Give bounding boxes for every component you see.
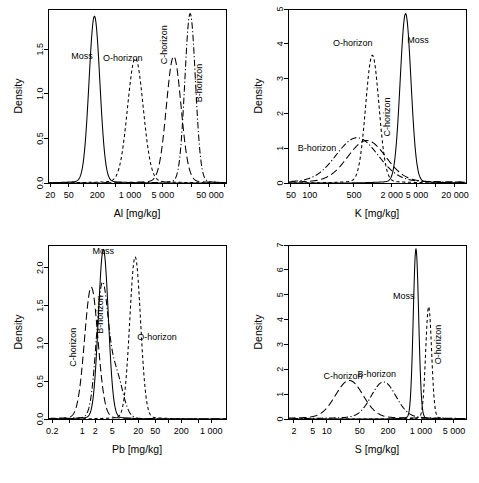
x-tick-label: 10 bbox=[322, 426, 332, 436]
series-label-moss: Moss bbox=[407, 35, 429, 45]
density-curve-o-horizon bbox=[288, 55, 466, 183]
x-tick-label: 5 bbox=[310, 426, 315, 436]
y-tick-label: 6 bbox=[275, 267, 285, 272]
y-tick-label: 2 bbox=[275, 111, 285, 116]
series-label-b-horizon: B-horizon bbox=[298, 143, 337, 153]
y-axis-title: Density bbox=[12, 314, 24, 350]
y-axis-title: Density bbox=[252, 314, 264, 350]
series-label-b-horizon: B-horizon bbox=[358, 369, 397, 379]
x-tick-label: 2 bbox=[93, 426, 98, 436]
density-curve-moss bbox=[288, 14, 466, 183]
x-tick-label: 50 bbox=[286, 190, 296, 200]
x-axis: 20502001 0005 00050 000 bbox=[45, 183, 224, 200]
y-axis: 012345 bbox=[275, 6, 288, 185]
y-tick-label: 4 bbox=[275, 317, 285, 322]
series-label-c-horizon: C-horizon bbox=[382, 97, 392, 136]
x-tick-label: 20 bbox=[45, 190, 55, 200]
x-tick-label: 50 bbox=[355, 426, 365, 436]
y-axis: 0.00.51.01.5 bbox=[35, 43, 48, 189]
series-label-moss: Moss bbox=[93, 246, 115, 256]
y-axis: 0.00.51.01.52.0 bbox=[35, 261, 48, 425]
y-tick-label: 0.5 bbox=[35, 132, 45, 145]
series-label-o-horizon: O-horizon bbox=[433, 325, 443, 365]
series-annotations: C-horizonB-horizonMossO-horizon bbox=[68, 246, 177, 367]
y-tick-label: 4 bbox=[275, 41, 285, 46]
panel-k: 501005002 0005 00020 000K [mg/kg]012345D… bbox=[240, 0, 479, 236]
x-tick-label: 5 000 bbox=[443, 426, 466, 436]
y-tick-label: 0.5 bbox=[35, 375, 45, 388]
series-label-c-horizon: C-horizon bbox=[68, 328, 78, 367]
x-tick-label: 5 000 bbox=[406, 190, 429, 200]
plot-box bbox=[288, 9, 466, 183]
panel-k-canvas: 501005002 0005 00020 000K [mg/kg]012345D… bbox=[240, 0, 479, 236]
x-tick-label: 500 bbox=[346, 190, 361, 200]
x-axis-title: S [mg/kg] bbox=[355, 443, 399, 455]
x-tick-label: 5 bbox=[110, 426, 115, 436]
x-tick-label: 1 000 bbox=[410, 426, 433, 436]
y-axis-title: Density bbox=[12, 78, 24, 114]
y-tick-label: 1 bbox=[275, 392, 285, 397]
series-label-b-horizon: B-horizon bbox=[95, 295, 105, 334]
series-label-moss: Moss bbox=[393, 291, 415, 301]
x-tick-label: 2 bbox=[291, 426, 296, 436]
x-tick-label: 1 bbox=[80, 426, 85, 436]
y-axis-title: Density bbox=[252, 78, 264, 114]
panel-pb: 0.212520502001 000Pb [mg/kg]0.00.51.01.5… bbox=[0, 236, 239, 472]
x-tick-label: 100 bbox=[302, 190, 317, 200]
x-tick-label: 50 bbox=[64, 190, 74, 200]
x-tick-label: 1 000 bbox=[119, 190, 142, 200]
y-tick-label: 3 bbox=[275, 76, 285, 81]
series-label-c-horizon: C-horizon bbox=[159, 25, 169, 64]
x-tick-label: 5 000 bbox=[152, 190, 175, 200]
series-label-o-horizon: O-horizon bbox=[137, 332, 177, 342]
x-tick-label: 1 000 bbox=[200, 426, 223, 436]
x-tick-label: 200 bbox=[90, 190, 105, 200]
curves bbox=[288, 14, 466, 183]
y-tick-label: 1.5 bbox=[35, 299, 45, 312]
y-tick-label: 7 bbox=[275, 242, 285, 247]
panel-al-canvas: 20502001 0005 00050 000Al [mg/kg]0.00.51… bbox=[0, 0, 239, 236]
x-axis: 2510502001 0005 000 bbox=[291, 419, 465, 436]
panel-pb-canvas: 0.212520502001 000Pb [mg/kg]0.00.51.01.5… bbox=[0, 236, 239, 472]
x-axis-title: K [mg/kg] bbox=[355, 207, 399, 219]
y-tick-label: 1 bbox=[275, 146, 285, 151]
x-tick-label: 200 bbox=[174, 426, 189, 436]
y-tick-label: 2 bbox=[275, 367, 285, 372]
series-label-o-horizon: O-horizon bbox=[103, 53, 143, 63]
y-tick-label: 0.0 bbox=[35, 177, 45, 190]
panel-al: 20502001 0005 00050 000Al [mg/kg]0.00.51… bbox=[0, 0, 239, 236]
y-tick-label: 0 bbox=[275, 180, 285, 185]
x-axis-title: Pb [mg/kg] bbox=[112, 443, 162, 455]
x-tick-label: 2 000 bbox=[381, 190, 404, 200]
series-label-b-horizon: B-horizon bbox=[194, 64, 204, 103]
y-tick-label: 0.0 bbox=[35, 413, 45, 426]
y-tick-label: 0 bbox=[275, 416, 285, 421]
y-tick-label: 5 bbox=[275, 6, 285, 11]
x-axis-title: Al [mg/kg] bbox=[114, 207, 161, 219]
x-tick-label: 20 000 bbox=[441, 190, 469, 200]
series-label-moss: Moss bbox=[71, 51, 93, 61]
density-curve-b-horizon bbox=[288, 382, 466, 419]
y-tick-label: 3 bbox=[275, 342, 285, 347]
y-tick-label: 1.0 bbox=[35, 337, 45, 350]
y-axis: 01234567 bbox=[275, 242, 288, 421]
y-tick-label: 1.5 bbox=[35, 43, 45, 56]
y-tick-label: 5 bbox=[275, 292, 285, 297]
x-tick-label: 50 bbox=[150, 426, 160, 436]
x-axis: 0.212520502001 000 bbox=[46, 419, 223, 436]
panel-s-canvas: 2510502001 0005 000S [mg/kg]01234567Dens… bbox=[240, 236, 479, 472]
x-tick-label: 50 000 bbox=[196, 190, 224, 200]
series-label-o-horizon: O-horizon bbox=[333, 38, 373, 48]
panel-s: 2510502001 0005 000S [mg/kg]01234567Dens… bbox=[240, 236, 479, 472]
y-tick-label: 2.0 bbox=[35, 261, 45, 274]
x-tick-label: 20 bbox=[133, 426, 143, 436]
density-plot-figure: 20502001 0005 00050 000Al [mg/kg]0.00.51… bbox=[0, 0, 479, 483]
x-tick-label: 0.2 bbox=[46, 426, 59, 436]
x-axis: 501005002 0005 00020 000 bbox=[286, 183, 469, 200]
y-tick-label: 1.0 bbox=[35, 88, 45, 101]
x-tick-label: 200 bbox=[381, 426, 396, 436]
